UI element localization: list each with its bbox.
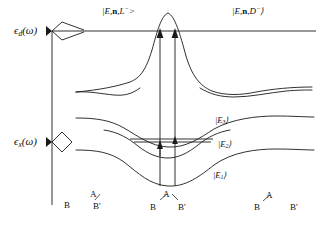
- energy-level-diagram: ϵd(ω) ϵx(ω) |E,n,L−> |E,n,D−⟩ |E3⟩ |E2⟩ …: [0, 0, 321, 226]
- state-label-E1: |E1⟩: [213, 171, 226, 181]
- coord-label-left-A: A: [90, 190, 97, 199]
- E2-level-arrowhead: [172, 136, 178, 144]
- coord-label-left-Bprime: B': [93, 202, 101, 211]
- coord-mid-connector-2: [172, 194, 178, 200]
- state-label-E2: |E2⟩: [218, 140, 231, 150]
- upper-dip-curve-left: [76, 88, 140, 95]
- coord-label-left-B: B: [64, 201, 70, 210]
- pump-arrow-left: [157, 28, 164, 186]
- axis-label-epsilon-x: ϵx(ω): [14, 136, 37, 148]
- state-label-E3: |E3⟩: [215, 116, 228, 126]
- pump-arrow-right: [172, 28, 179, 186]
- coord-label-mid-B: B: [150, 203, 156, 212]
- coord-label-right-A: A: [266, 191, 273, 200]
- coord-label-mid-Bprime: B': [178, 203, 186, 212]
- coord-label-mid-A: A: [163, 190, 170, 199]
- ket-label-E-n-D-minus: |E,n,D−⟩: [232, 6, 264, 16]
- resonance-peak-curve: [76, 13, 312, 95]
- axis-label-epsilon-d: ϵd(ω): [14, 25, 37, 37]
- E2-potential-curve: [104, 130, 230, 158]
- E1-potential-curve: [76, 149, 314, 186]
- coord-label-right-B: B: [254, 203, 260, 212]
- ket-label-E-n-L-minus: |E,n,L−>: [102, 6, 135, 16]
- epsilon-x-tick-marker: [46, 132, 72, 152]
- coord-label-right-Bprime: B': [290, 203, 298, 212]
